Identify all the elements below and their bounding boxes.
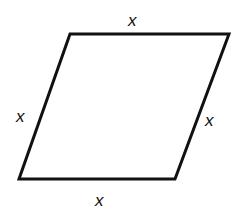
rhombus-diagram: x x x x: [0, 0, 233, 214]
rhombus-shape: [19, 34, 229, 179]
side-label-bottom: x: [94, 191, 104, 210]
side-label-left: x: [15, 107, 25, 126]
side-label-top: x: [127, 11, 137, 30]
side-label-right: x: [204, 111, 214, 130]
